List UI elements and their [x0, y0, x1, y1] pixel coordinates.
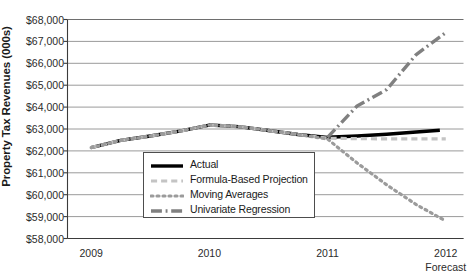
legend-item: Formula-Based Projection — [144, 171, 314, 186]
legend-item: Univariate Regression — [144, 201, 314, 216]
chart-legend: ActualFormula-Based ProjectionMoving Ave… — [143, 152, 315, 218]
light-gray-dashed-line-swatch — [150, 173, 184, 185]
property-tax-revenue-forecast-chart: Property Tax Revenues (000s) $58,000$59,… — [0, 0, 470, 279]
x-axis-sublabel-forecast: Forecast — [425, 261, 466, 273]
gray-dashdot-line-swatch — [150, 203, 184, 215]
x-axis-tick-label: 2010 — [198, 247, 221, 259]
legend-item: Moving Averages — [144, 186, 314, 201]
gray-dotted-line-swatch — [150, 188, 184, 200]
x-axis-tick-label: 2011 — [316, 247, 339, 259]
x-axis-tick-label: 2012 — [434, 247, 457, 259]
legend-item-label: Univariate Regression — [190, 203, 290, 215]
x-axis-tick-label: 2009 — [79, 247, 102, 259]
legend-item: Actual — [144, 156, 314, 171]
x-axis-tick-labels: 2009201020112012Forecast — [0, 0, 470, 279]
legend-item-label: Actual — [190, 158, 218, 170]
solid-black-line-swatch — [150, 158, 184, 170]
legend-item-label: Formula-Based Projection — [190, 173, 308, 185]
legend-item-label: Moving Averages — [190, 188, 268, 200]
